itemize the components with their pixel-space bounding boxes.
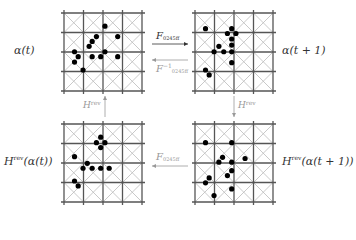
particle-dot: [90, 166, 95, 171]
arrowhead-icon: [232, 113, 236, 117]
particle-dot: [229, 49, 234, 54]
particle-dot: [220, 155, 225, 160]
particle-dot: [72, 154, 77, 159]
particle-dot: [225, 173, 230, 178]
label-alpha-t1-text: α(t + 1): [282, 44, 326, 57]
particle-dot: [229, 26, 234, 31]
particle-dot: [207, 72, 212, 77]
particle-dot: [225, 31, 230, 36]
particle-dot: [76, 54, 81, 59]
particle-dot: [211, 49, 216, 54]
label-hrev-alpha-t1: Hrev(α(t + 1)): [282, 156, 354, 167]
forward-sub: 0245ff: [163, 35, 179, 41]
arrow-label-bottom: F0245ff: [156, 152, 179, 162]
inverse-sup: −1: [163, 62, 172, 69]
particle-dot: [76, 183, 81, 188]
particle-dot: [102, 140, 107, 145]
particle-dot: [229, 160, 234, 165]
particle-dot: [98, 166, 103, 171]
particle-dot: [211, 193, 216, 198]
bottom-F: F: [156, 151, 163, 162]
label-hrev-rest: (α(t)): [23, 155, 52, 168]
label-hrev-H: H: [4, 155, 14, 168]
particle-dot: [72, 178, 77, 183]
inverse-sub: 0245ff: [172, 68, 188, 74]
arrow-label-inverse: F−10245ff: [156, 64, 188, 74]
arrowhead-icon: [184, 42, 188, 46]
particle-dot: [203, 180, 208, 185]
particle-dot: [115, 54, 120, 59]
arrowhead-icon: [103, 96, 107, 100]
particle-dot: [94, 140, 99, 145]
arrowhead-icon: [152, 58, 156, 62]
particle-dot: [87, 44, 92, 49]
particle-dot: [90, 54, 95, 59]
particle-dot: [80, 67, 85, 72]
label-alpha-t-text: α(t): [14, 44, 34, 57]
particle-dot: [115, 34, 120, 39]
hrev-up-H: H: [83, 100, 91, 110]
label-hrev1-sup: rev: [292, 154, 302, 161]
label-alpha-t1: α(t + 1): [282, 45, 326, 56]
hrev-down-H: H: [238, 100, 246, 110]
particle-dot: [72, 60, 77, 65]
label-hrev-sup: rev: [14, 154, 24, 161]
particle-dot: [203, 67, 208, 72]
label-hrev1-rest: (α(t + 1)): [301, 155, 353, 168]
particle-dot: [107, 166, 112, 171]
particle-dot: [203, 140, 208, 145]
particle-dot: [98, 145, 103, 150]
inverse-F: F: [156, 63, 163, 74]
particle-dot: [229, 42, 234, 47]
particle-dot: [242, 156, 247, 161]
label-hrev-alpha-t: Hrev(α(t)): [4, 156, 52, 167]
particle-dot: [80, 166, 85, 171]
particle-dot: [102, 49, 107, 54]
particle-dot: [72, 49, 77, 54]
particle-dot: [216, 44, 221, 49]
particle-dot: [102, 24, 107, 29]
arrowhead-icon: [152, 164, 156, 168]
particle-dot: [90, 39, 95, 44]
particle-dot: [221, 49, 226, 54]
particle-dot: [98, 135, 103, 140]
particle-dot: [94, 34, 99, 39]
particle-dot: [207, 175, 212, 180]
bottom-sub: 0245ff: [163, 156, 179, 162]
forward-F: F: [156, 30, 163, 41]
particle-dot: [229, 186, 234, 191]
particle-dot: [85, 161, 90, 166]
particle-dot: [229, 36, 234, 41]
arrow-label-hrev-down: Hrev: [238, 101, 256, 110]
particle-dot: [229, 60, 234, 65]
arrow-label-hrev-up: Hrev: [83, 101, 101, 110]
hrev-up-sup: rev: [91, 99, 101, 106]
particle-dot: [233, 31, 238, 36]
arrow-label-forward: F0245ff: [156, 31, 179, 41]
label-alpha-t: α(t): [14, 45, 34, 56]
particle-dot: [98, 54, 103, 59]
hrev-down-sup: rev: [246, 99, 256, 106]
particle-dot: [229, 168, 234, 173]
particle-dot: [203, 26, 208, 31]
particle-dot: [216, 160, 221, 165]
particle-dot: [229, 140, 234, 145]
label-hrev1-H: H: [282, 155, 292, 168]
